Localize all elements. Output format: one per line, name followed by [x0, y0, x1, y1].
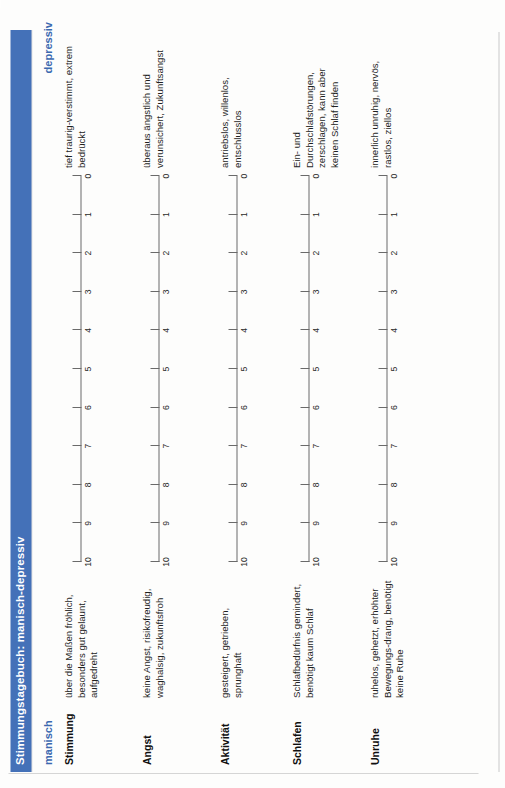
scale-tick-label: 0 — [310, 166, 320, 186]
scale-tick-label: 3 — [82, 282, 92, 302]
scale-tick[interactable] — [150, 561, 159, 562]
scale-tick[interactable] — [378, 329, 387, 330]
scale-tick-label: 2 — [388, 243, 398, 263]
manisch-description: keine Angst, risikofreudig, waghalsig, z… — [140, 570, 165, 698]
scale-tick[interactable] — [378, 522, 387, 523]
scale-tick[interactable] — [300, 407, 309, 408]
depressiv-description: antriebslos, willenlos, entschlusslos — [218, 40, 243, 168]
scale-tick[interactable] — [72, 407, 81, 408]
scale-axis-line — [236, 176, 237, 562]
sheet-bottom-rule — [498, 32, 499, 772]
rating-row-label: Aktivität — [218, 703, 231, 765]
scale-tick[interactable] — [378, 291, 387, 292]
scale-tick[interactable] — [300, 329, 309, 330]
scale-tick[interactable] — [150, 407, 159, 408]
scale-tick[interactable] — [300, 484, 309, 485]
scale-tick-label: 8 — [238, 475, 248, 495]
scale-tick[interactable] — [300, 214, 309, 215]
scale-tick[interactable] — [300, 522, 309, 523]
scale-tick-label: 4 — [160, 320, 170, 340]
rating-scale[interactable]: 109876543210 — [222, 176, 248, 562]
scale-tick[interactable] — [72, 175, 81, 176]
scale-tick[interactable] — [150, 368, 159, 369]
scale-tick[interactable] — [72, 214, 81, 215]
scale-tick[interactable] — [300, 445, 309, 446]
depressiv-description: innerlich unruhig, nervös, rastlos, ziel… — [368, 40, 393, 168]
manisch-description: Schlafbedürfnis gemindert, benötigt kaum… — [290, 570, 315, 698]
rating-scale[interactable]: 109876543210 — [66, 176, 92, 562]
scale-tick-label: 10 — [310, 552, 320, 572]
scale-tick[interactable] — [378, 484, 387, 485]
scale-tick-label: 1 — [238, 205, 248, 225]
scale-tick[interactable] — [150, 252, 159, 253]
scale-tick[interactable] — [228, 291, 237, 292]
sheet-left-rule — [8, 773, 478, 774]
scale-tick[interactable] — [150, 484, 159, 485]
scale-tick-label: 10 — [388, 552, 398, 572]
scale-tick-label: 2 — [82, 243, 92, 263]
scale-tick-label: 5 — [238, 359, 248, 379]
scale-tick[interactable] — [378, 368, 387, 369]
scale-tick[interactable] — [150, 291, 159, 292]
scale-tick-label: 4 — [388, 320, 398, 340]
scale-tick[interactable] — [72, 445, 81, 446]
scale-tick[interactable] — [72, 329, 81, 330]
scale-tick-label: 1 — [388, 205, 398, 225]
manisch-description: gesteigert, getrieben, sprunghaft — [218, 570, 243, 698]
rating-scale[interactable]: 109876543210 — [144, 176, 170, 562]
scale-tick[interactable] — [228, 175, 237, 176]
scale-tick[interactable] — [72, 522, 81, 523]
scale-tick[interactable] — [228, 329, 237, 330]
scale-tick[interactable] — [150, 522, 159, 523]
scale-tick[interactable] — [300, 368, 309, 369]
scale-tick[interactable] — [378, 445, 387, 446]
scale-tick-label: 9 — [238, 513, 248, 533]
scale-tick[interactable] — [72, 291, 81, 292]
depressiv-description: überaus ängstlich und verunsichert, Zuku… — [140, 40, 165, 168]
scale-tick[interactable] — [72, 368, 81, 369]
scale-tick-label: 2 — [160, 243, 170, 263]
scale-tick[interactable] — [228, 407, 237, 408]
rating-scale[interactable]: 109876543210 — [294, 176, 320, 562]
scale-tick[interactable] — [72, 561, 81, 562]
scale-tick[interactable] — [378, 561, 387, 562]
scale-tick[interactable] — [228, 484, 237, 485]
scale-tick[interactable] — [228, 445, 237, 446]
scale-tick[interactable] — [300, 561, 309, 562]
scale-tick[interactable] — [150, 175, 159, 176]
scale-tick-label: 1 — [82, 205, 92, 225]
scale-tick[interactable] — [228, 214, 237, 215]
scale-tick[interactable] — [228, 252, 237, 253]
rating-scale[interactable]: 109876543210 — [372, 176, 398, 562]
scale-tick[interactable] — [378, 175, 387, 176]
scale-tick[interactable] — [150, 214, 159, 215]
rating-row: Aktivitätgesteigert, getrieben, sprungha… — [218, 30, 296, 772]
scale-tick[interactable] — [228, 368, 237, 369]
scale-tick-label: 6 — [160, 398, 170, 418]
page-title: Stimmungstagebuch: manisch-depressiv — [13, 536, 25, 765]
scale-tick[interactable] — [72, 484, 81, 485]
scale-axis-line — [80, 176, 81, 562]
scale-tick-label: 5 — [388, 359, 398, 379]
scale-tick[interactable] — [228, 561, 237, 562]
scale-tick[interactable] — [300, 291, 309, 292]
scale-tick-label: 9 — [388, 513, 398, 533]
scale-tick-label: 6 — [310, 398, 320, 418]
scale-tick[interactable] — [378, 407, 387, 408]
scale-tick-label: 1 — [310, 205, 320, 225]
scale-tick[interactable] — [378, 214, 387, 215]
rating-row: SchlafenSchlafbedürfnis gemindert, benöt… — [290, 30, 368, 772]
scale-tick-label: 5 — [82, 359, 92, 379]
scale-tick-label: 3 — [160, 282, 170, 302]
scale-tick[interactable] — [72, 252, 81, 253]
scale-tick[interactable] — [150, 445, 159, 446]
scale-tick[interactable] — [300, 175, 309, 176]
scale-tick-label: 9 — [310, 513, 320, 533]
scale-tick-label: 7 — [310, 436, 320, 456]
manisch-description: über die Maßen fröhlich, besonders gut g… — [62, 570, 100, 698]
scale-tick[interactable] — [300, 252, 309, 253]
scale-tick-label: 9 — [160, 513, 170, 533]
scale-tick[interactable] — [228, 522, 237, 523]
scale-tick[interactable] — [150, 329, 159, 330]
scale-tick[interactable] — [378, 252, 387, 253]
